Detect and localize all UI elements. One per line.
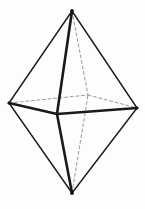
marker-right (135, 106, 138, 109)
square-bipyramid-drawing (0, 0, 145, 209)
figure-canvas (0, 0, 145, 209)
marker-top-apex (70, 9, 74, 13)
marker-bottom-apex (70, 191, 74, 195)
marker-left (7, 101, 10, 104)
